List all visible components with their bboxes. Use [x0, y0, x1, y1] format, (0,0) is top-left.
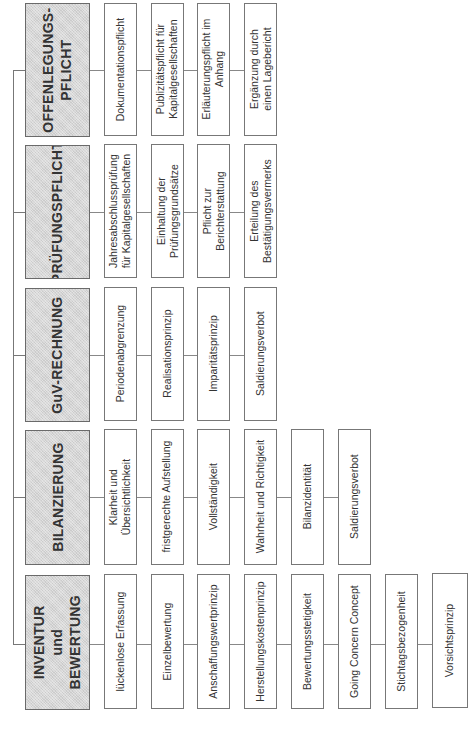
row-connector [137, 355, 151, 356]
principle-box: Saldierungsverbot [338, 429, 371, 565]
principle-text: lückenlose Erfassung [114, 592, 127, 692]
header-text: PFLICHT [58, 7, 76, 132]
principle-box: lückenlose Erfassung [104, 574, 137, 709]
row-connector [230, 355, 244, 356]
principle-box: Realisationsprinzip [151, 287, 184, 421]
group-bilanzierung-header: BILANZIERUNG [25, 430, 90, 565]
group-guv-rechnung-header: GuV-RECHNUNG [25, 288, 90, 422]
row-connector [184, 355, 197, 356]
row-connector [137, 212, 151, 213]
connector-pruefung [13, 212, 25, 213]
principle-text: Realisationsprinzip [161, 310, 174, 398]
row-connector [90, 70, 104, 71]
row-connector [184, 644, 197, 645]
connector-offenlegung [13, 70, 25, 71]
principle-box: Anschaffungswertprinzip [197, 574, 230, 709]
header-text: INVENTUR [30, 595, 48, 689]
header-text: OFFENLEGUNGS- [39, 7, 57, 132]
row-connector [90, 497, 104, 498]
principle-text: Bilanzidentität [301, 464, 314, 529]
row-connector [137, 497, 151, 498]
row-connector [418, 644, 432, 645]
row-connector [324, 497, 338, 498]
header-text: und [48, 595, 66, 689]
principle-text: Übersichtlichkeit [121, 459, 134, 535]
principle-box: Erteilung desBestätigungsvermerks [244, 144, 277, 278]
header-text: PRÜFUNGSPFLICHT [48, 145, 66, 279]
principle-text: Publizitätspflicht für [154, 20, 167, 119]
principle-box: Imparitätsprinzip [197, 287, 230, 421]
row-connector [184, 212, 197, 213]
principle-box: Herstellungskostenprinzip [244, 574, 277, 709]
principle-text: Einhaltung der [154, 164, 167, 258]
principle-box: Going Concern Concept [338, 574, 371, 709]
principle-text: Vollständigkeit [207, 463, 220, 530]
connector-guv [13, 355, 25, 356]
principle-box: Bilanzidentität [291, 429, 324, 565]
principle-text: für Kapitalgesellschaften [121, 154, 134, 268]
principle-box: Ergänzung durcheinen Lagebericht [244, 3, 277, 136]
group-pruefungspflicht-header: PRÜFUNGSPFLICHT [25, 145, 90, 279]
row-connector [277, 644, 291, 645]
row-connector [90, 644, 104, 645]
principle-box: Publizitätspflicht fürKapitalgesellschaf… [151, 3, 184, 136]
principle-text: Going Concern Concept [348, 585, 361, 698]
principle-text: Prüfungsgrundsätze [168, 164, 181, 258]
principle-text: Klarheit und [107, 459, 120, 535]
header-text: BILANZIERUNG [48, 443, 66, 552]
principle-text: Anhang [214, 19, 227, 120]
principle-box: Bewertungsstetigkeit [291, 574, 324, 709]
principle-text: Vorsichtsprinzip [443, 604, 456, 678]
principle-box: Jahresabschlussprüfungfür Kapitalgesells… [104, 144, 137, 278]
row-connector [371, 644, 385, 645]
row-connector [277, 497, 291, 498]
principle-text: Erläuterungspflicht im [200, 19, 213, 120]
principle-box: Vollständigkeit [197, 429, 230, 565]
principle-text: Bestätigungsvermerks [261, 159, 274, 263]
principle-box: fristgerechte Aufstellung [151, 429, 184, 565]
row-connector [90, 355, 104, 356]
row-connector [137, 70, 151, 71]
row-connector [324, 644, 338, 645]
principle-text: Herstellungskostenprinzip [254, 581, 267, 701]
principle-text: Ergänzung durch [247, 28, 260, 111]
row-connector [230, 212, 244, 213]
principle-text: Bewertungsstetigkeit [301, 593, 314, 690]
row-connector [230, 70, 244, 71]
principle-box: Pflicht zurBerichterstattung [197, 144, 230, 278]
principle-text: Kapitalgesellschaften [168, 20, 181, 119]
principle-text: Stichtagsbezogenheit [395, 591, 408, 691]
row-connector [230, 644, 244, 645]
principle-text: Berichterstattung [214, 171, 227, 250]
principle-box: Einzelbewertung [151, 574, 184, 709]
principle-text: Einzelbewertung [161, 603, 174, 681]
principle-text: einen Lagebericht [261, 28, 274, 111]
principle-text: Pflicht zur [200, 171, 213, 250]
row-connector [184, 70, 197, 71]
connector-bilanzierung [13, 497, 25, 498]
group-inventur-bewertung-header: INVENTURundBEWERTUNG [25, 575, 90, 710]
row-connector [230, 497, 244, 498]
connector-inventur [13, 644, 25, 645]
principle-box: Stichtagsbezogenheit [385, 574, 418, 709]
principle-text: Erteilung des [247, 159, 260, 263]
principle-text: Anschaffungswertprinzip [207, 584, 220, 698]
row-connector [90, 212, 104, 213]
principle-text: Periodenabgrenzung [114, 305, 127, 403]
header-text: BEWERTUNG [67, 595, 85, 689]
principle-text: Imparitätsprinzip [207, 315, 220, 392]
principle-text: Jahresabschlussprüfung [107, 154, 120, 268]
header-text: GuV-RECHNUNG [48, 296, 66, 413]
group-offenlegungspflicht-header: OFFENLEGUNGS-PFLICHT [25, 3, 90, 137]
principle-box: Klarheit undÜbersichtlichkeit [104, 429, 137, 565]
principle-text: Saldierungsverbot [254, 312, 267, 397]
principle-text: Saldierungsverbot [348, 455, 361, 540]
principle-box: Wahrheit und Richtigkeit [244, 429, 277, 565]
principle-box: Periodenabgrenzung [104, 287, 137, 421]
row-connector [137, 644, 151, 645]
principle-text: Wahrheit und Richtigkeit [254, 440, 267, 553]
principle-box: Dokumentationspflicht [104, 3, 137, 136]
principle-box: Saldierungsverbot [244, 287, 277, 421]
principle-text: Dokumentationspflicht [114, 18, 127, 121]
principle-box: Vorsichtsprinzip [432, 573, 468, 708]
